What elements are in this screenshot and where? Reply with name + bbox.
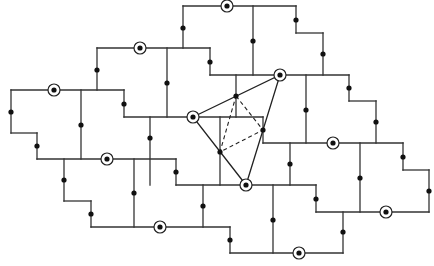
midpoint-dot-icon (357, 175, 362, 180)
midpoint-dot-icon (233, 93, 238, 98)
midpoint-dot-icon (346, 85, 351, 90)
midpoint-dot-icon (131, 190, 136, 195)
midpoint-dot-icon (313, 196, 318, 201)
midpoint-dot-icon (293, 17, 298, 22)
dashed-triangle-shape (220, 96, 263, 152)
midpoint-dot-icon (34, 143, 39, 148)
midpoint-dot-icon (260, 127, 265, 132)
mesh-diagram (0, 0, 434, 266)
circled-node-icon (187, 111, 199, 123)
midpoint-dot-icon (207, 59, 212, 64)
midpoint-dot-icon (78, 122, 83, 127)
midpoint-dot-icon (373, 119, 378, 124)
diagram-canvas (0, 0, 434, 266)
midpoint-dot-icon (8, 109, 13, 114)
midpoint-dot-icon (200, 203, 205, 208)
circled-node-icon (48, 84, 60, 96)
midpoint-dot-icon (173, 169, 178, 174)
midpoint-dot-icon (320, 51, 325, 56)
circled-node-icon (154, 221, 166, 233)
midpoint-dot-icon (303, 107, 308, 112)
midpoint-dot-icon (164, 80, 169, 85)
midpoint-dot-icon (227, 237, 232, 242)
circled-node-icon (274, 69, 286, 81)
circled-node-icon (327, 137, 339, 149)
midpoint-dot-icon (180, 25, 185, 30)
midpoint-dot-icon (147, 135, 152, 140)
circled-node-icon (293, 247, 305, 259)
circled-node-icon (380, 206, 392, 218)
midpoint-dot-icon (94, 67, 99, 72)
circled-node-icon (101, 153, 113, 165)
midpoint-dot-icon (61, 177, 66, 182)
midpoint-dot-icon (121, 101, 126, 106)
midpoint-dot-icon (270, 217, 275, 222)
midpoint-dot-icon (217, 149, 222, 154)
midpoint-dot-icon (88, 211, 93, 216)
dashed-inner-triangle (220, 96, 263, 152)
circled-node-icon (134, 42, 146, 54)
midpoint-dot-icon (426, 188, 431, 193)
midpoint-dot-icon (340, 229, 345, 234)
midpoint-dot-icon (287, 161, 292, 166)
circled-node-icon (240, 179, 252, 191)
circled-node-icon (221, 0, 233, 12)
midpoint-dot-icon (250, 38, 255, 43)
midpoint-dot-icon (400, 154, 405, 159)
cell-edges (11, 6, 429, 253)
